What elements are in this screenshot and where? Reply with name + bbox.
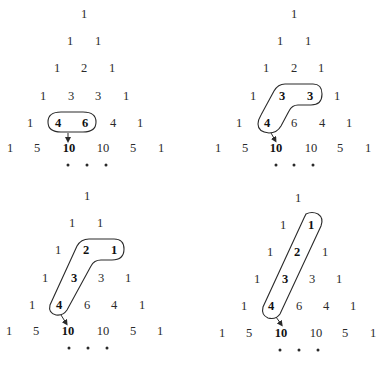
triangle-entry: 3 xyxy=(68,89,74,103)
triangle-entry: 1 xyxy=(370,326,376,340)
triangle-entry: 1 xyxy=(346,116,352,130)
triangle-entry: 1 xyxy=(125,271,131,285)
triangle-entry: 3 xyxy=(98,271,104,285)
triangle-entry: 1 xyxy=(97,216,103,230)
triangle-entry: 1 xyxy=(6,324,12,338)
triangle-entry: 6 xyxy=(291,116,297,130)
triangle-entry: 5 xyxy=(342,326,348,340)
triangle-entry: 1 xyxy=(236,116,242,130)
highlighted-entry: 6 xyxy=(82,116,88,130)
highlighted-entry: 1 xyxy=(308,218,314,232)
triangle-entry: 1 xyxy=(7,141,13,155)
ellipsis-dot xyxy=(279,349,282,352)
triangle-entry: 1 xyxy=(318,61,324,75)
triangle-entry: 1 xyxy=(81,7,87,21)
highlighted-entry: 3 xyxy=(307,89,313,103)
triangle-entry: 1 xyxy=(54,61,60,75)
triangle-entry: 5 xyxy=(130,324,136,338)
ellipsis-dot xyxy=(68,347,71,350)
triangle-entry: 6 xyxy=(84,298,90,312)
sum-arrow-icon xyxy=(61,315,66,323)
triangle-entry: 1 xyxy=(350,299,356,313)
ellipsis-dot xyxy=(312,164,315,167)
triangle-entry: 1 xyxy=(280,218,286,232)
triangle-entry: 1 xyxy=(158,141,164,155)
triangle-entry: 1 xyxy=(42,271,48,285)
triangle-entry: 5 xyxy=(246,326,252,340)
highlighted-entry: 3 xyxy=(71,271,77,285)
triangle-entry: 2 xyxy=(81,61,87,75)
ellipsis-dot xyxy=(86,164,89,167)
ellipsis-dot xyxy=(105,164,108,167)
triangle-entry: 1 xyxy=(305,34,311,48)
highlighted-entry: 2 xyxy=(294,245,300,259)
triangle-entry: 1 xyxy=(139,298,145,312)
triangle-entry: 3 xyxy=(95,89,101,103)
triangle-entry: 1 xyxy=(29,298,35,312)
ellipsis-dot xyxy=(275,164,278,167)
highlighted-entry: 4 xyxy=(56,298,63,312)
panel-bottom-right: 11112113311464115101051 xyxy=(219,191,376,352)
ellipsis-dot xyxy=(293,164,296,167)
highlighted-entry: 3 xyxy=(279,89,285,103)
triangle-entry: 5 xyxy=(242,141,248,155)
triangle-entry: 1 xyxy=(40,89,46,103)
highlighted-entry: 4 xyxy=(264,116,271,130)
triangle-entry: 1 xyxy=(254,272,260,286)
triangle-entry: 1 xyxy=(123,89,129,103)
triangle-entry: 1 xyxy=(27,116,33,130)
triangle-entry: 1 xyxy=(55,243,61,257)
triangle-entry: 3 xyxy=(309,272,315,286)
panel-top-left: 11112113311464115101051 xyxy=(7,7,164,167)
triangle-entry: 4 xyxy=(110,116,117,130)
triangle-entry: 1 xyxy=(219,326,225,340)
triangle-entry: 10 xyxy=(305,141,318,155)
pascal-triangle-canvas: 1111211331146411510105111112113311464115… xyxy=(0,0,391,379)
triangle-entry: 5 xyxy=(33,324,39,338)
triangle-entry: 1 xyxy=(291,7,297,21)
triangle-entry: 4 xyxy=(111,298,118,312)
triangle-entry: 10 xyxy=(97,141,110,155)
triangle-entry: 1 xyxy=(84,189,90,203)
highlighted-entry: 10 xyxy=(63,141,76,155)
triangle-entry: 10 xyxy=(310,326,323,340)
ellipsis-dot xyxy=(87,347,90,350)
triangle-entry: 1 xyxy=(334,89,340,103)
highlighted-entry: 10 xyxy=(62,324,75,338)
panel-top-right: 11112113311464115101051 xyxy=(215,7,371,167)
ellipsis-dot xyxy=(298,349,301,352)
triangle-entry: 10 xyxy=(97,324,110,338)
triangle-entry: 1 xyxy=(137,116,143,130)
sum-arrow-icon xyxy=(271,133,275,140)
highlighted-entry: 4 xyxy=(268,299,275,313)
triangle-entry: 1 xyxy=(109,61,115,75)
triangle-entry: 1 xyxy=(267,245,273,259)
triangle-entry: 1 xyxy=(277,34,283,48)
triangle-entry: 2 xyxy=(291,61,297,75)
highlighted-entry: 1 xyxy=(111,243,117,257)
highlighted-entry: 3 xyxy=(282,272,288,286)
triangle-entry: 5 xyxy=(337,141,343,155)
triangle-entry: 1 xyxy=(295,191,301,205)
sum-arrow-icon xyxy=(276,317,281,324)
triangle-entry: 1 xyxy=(67,34,73,48)
ellipsis-dot xyxy=(67,164,70,167)
triangle-entry: 1 xyxy=(69,216,75,230)
triangle-entry: 1 xyxy=(241,299,247,313)
ellipsis-dot xyxy=(317,349,320,352)
triangle-entry: 5 xyxy=(34,141,40,155)
pascal-triangle-figure: 1111211331146411510105111112113311464115… xyxy=(0,0,391,379)
triangle-entry: 1 xyxy=(157,324,163,338)
triangle-entry: 1 xyxy=(322,245,328,259)
triangle-entry: 5 xyxy=(130,141,136,155)
triangle-entry: 1 xyxy=(95,34,101,48)
panel-bottom-left: 11112113311464115101051 xyxy=(6,189,163,350)
triangle-entry: 4 xyxy=(323,299,330,313)
triangle-entry: 1 xyxy=(263,61,269,75)
triangle-entry: 1 xyxy=(250,89,256,103)
highlighted-entry: 2 xyxy=(83,243,89,257)
triangle-entry: 4 xyxy=(319,116,326,130)
triangle-entry: 1 xyxy=(215,141,221,155)
triangle-entry: 1 xyxy=(336,272,342,286)
highlighted-entry: 10 xyxy=(270,141,283,155)
